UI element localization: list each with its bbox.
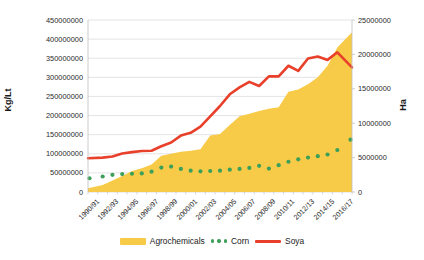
plot-area xyxy=(0,0,424,260)
chart-container: Kg/Lt Ha 0500000001000000001500000002000… xyxy=(0,0,424,260)
area-swatch-icon xyxy=(120,238,146,245)
line-swatch-icon xyxy=(255,240,281,243)
series-agrochemicals xyxy=(88,32,352,192)
legend-label-corn: Corn xyxy=(231,236,249,246)
chart-legend: Agrochemicals Corn Soya xyxy=(0,236,424,246)
legend-item-soya: Soya xyxy=(255,236,304,246)
dots-swatch-icon xyxy=(211,239,227,242)
legend-label-soya: Soya xyxy=(285,236,304,246)
legend-item-corn: Corn xyxy=(211,236,249,246)
legend-label-agrochemicals: Agrochemicals xyxy=(150,236,205,246)
legend-item-agrochemicals: Agrochemicals xyxy=(120,236,205,246)
